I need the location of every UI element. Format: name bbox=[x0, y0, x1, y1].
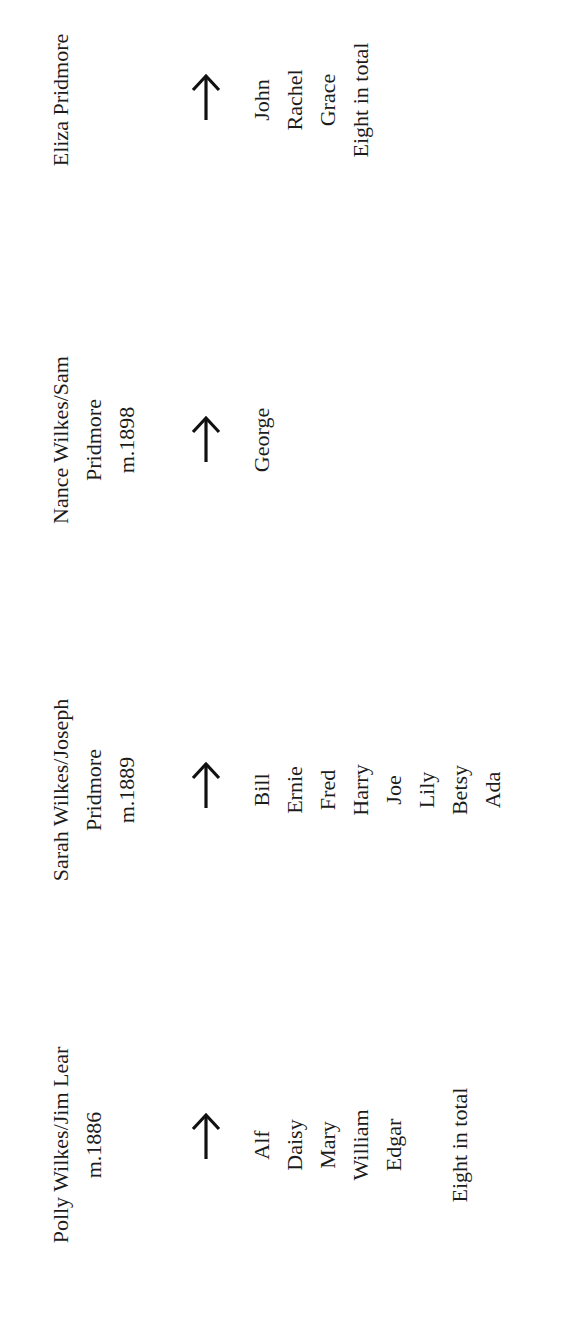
couple-header: Polly Wilkes/Jim Lear m.1886 bbox=[44, 995, 110, 1295]
children-list: George bbox=[245, 290, 278, 590]
children-list: John Rachel Grace Eight in total bbox=[245, 0, 377, 250]
child-name: Edgar bbox=[377, 995, 410, 1295]
child-name: Joe bbox=[377, 640, 410, 940]
marriage-year: m.1898 bbox=[110, 290, 143, 590]
child-name: Betsy bbox=[443, 640, 476, 940]
child-name: Grace bbox=[311, 0, 344, 250]
children-list: Bill Ernie Fred Harry Joe Lily Betsy Ada bbox=[245, 640, 509, 940]
child-name: John bbox=[245, 0, 278, 250]
right-arrow-icon bbox=[186, 1111, 226, 1161]
child-name: Alf bbox=[245, 995, 278, 1295]
child-name: Harry bbox=[344, 640, 377, 940]
child-name: George bbox=[245, 290, 278, 590]
child-name: William bbox=[344, 995, 377, 1295]
children-list: Alf Daisy Mary William Edgar bbox=[245, 995, 410, 1295]
child-name: Ada bbox=[476, 640, 509, 940]
family-tree-page: Polly Wilkes/Jim Lear m.1886 Alf Daisy M… bbox=[0, 0, 574, 1318]
couple-names: Nance Wilkes/Sam bbox=[44, 290, 77, 590]
marriage-year: m.1886 bbox=[77, 995, 110, 1295]
children-total-note: Eight in total bbox=[443, 995, 476, 1295]
child-name: Fred bbox=[311, 640, 344, 940]
child-name: Mary bbox=[311, 995, 344, 1295]
couple-names-continued: Pridmore bbox=[77, 640, 110, 940]
right-arrow-icon bbox=[186, 414, 226, 464]
couple-names: Polly Wilkes/Jim Lear bbox=[44, 995, 77, 1295]
couple-names-continued: Pridmore bbox=[77, 290, 110, 590]
couple-header: Eliza Pridmore bbox=[44, 0, 77, 250]
family-group-sarah: Sarah Wilkes/Joseph Pridmore m.1889 Bill… bbox=[0, 640, 574, 940]
family-group-nance: Nance Wilkes/Sam Pridmore m.1898 George bbox=[0, 290, 574, 590]
couple-header: Nance Wilkes/Sam Pridmore m.1898 bbox=[44, 290, 143, 590]
family-group-polly: Polly Wilkes/Jim Lear m.1886 Alf Daisy M… bbox=[0, 995, 574, 1295]
child-name: Lily bbox=[410, 640, 443, 940]
child-name: Ernie bbox=[278, 640, 311, 940]
right-arrow-icon bbox=[186, 760, 226, 810]
children-total-note: Eight in total bbox=[344, 0, 377, 250]
right-arrow-icon bbox=[186, 72, 226, 122]
family-group-eliza: Eliza Pridmore John Rachel Grace Eight i… bbox=[0, 0, 574, 250]
child-name: Bill bbox=[245, 640, 278, 940]
marriage-year: m.1889 bbox=[110, 640, 143, 940]
couple-header: Sarah Wilkes/Joseph Pridmore m.1889 bbox=[44, 640, 143, 940]
person-name: Eliza Pridmore bbox=[44, 0, 77, 250]
child-name: Daisy bbox=[278, 995, 311, 1295]
couple-names: Sarah Wilkes/Joseph bbox=[44, 640, 77, 940]
child-name: Rachel bbox=[278, 0, 311, 250]
